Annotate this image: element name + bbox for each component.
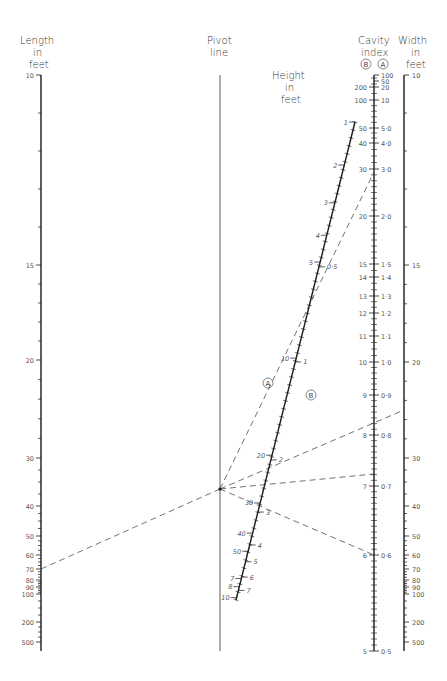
height-left-tick-label: 2	[333, 162, 337, 170]
cavity-a-tick-label: 1·0	[381, 359, 391, 367]
svg-text:Cavity: Cavity	[358, 35, 390, 46]
cavity-b-tick-label: 20	[359, 213, 367, 221]
svg-text:index: index	[361, 47, 388, 58]
cavity-index-title: Cavity index B A	[358, 35, 390, 69]
svg-text:in: in	[285, 82, 294, 93]
cavity-a-tick-label: 0·5	[381, 648, 391, 656]
svg-text:Height: Height	[272, 70, 305, 81]
svg-text:Pivot: Pivot	[207, 35, 232, 46]
example-dashed-lines	[41, 172, 404, 569]
length-tick-label: 15	[26, 262, 34, 270]
height-left-tick-label: 30	[245, 499, 253, 507]
width-tick-label: 500	[412, 639, 424, 647]
height-right-tick-label: 7	[246, 587, 251, 595]
cavity-b-tick-label: 50	[359, 125, 367, 133]
height-left-tick-label: 10	[221, 594, 229, 602]
cavity-b-tick-label: 10	[359, 359, 367, 367]
dashed-line-length-to-pivot	[41, 489, 220, 569]
svg-text:B: B	[364, 61, 369, 69]
cavity-b-tick-label: 40	[359, 140, 367, 148]
cavity-b-tick-label: 9	[363, 392, 367, 400]
width-tick-label: 15	[412, 262, 420, 270]
cavity-a-tick-label: 20	[381, 84, 389, 92]
dashed-line-width	[220, 410, 404, 489]
height-left-tick-label: 1	[344, 119, 348, 127]
svg-text:in: in	[33, 47, 42, 58]
length-tick-label: 10	[26, 72, 34, 80]
svg-text:feet: feet	[281, 94, 301, 105]
height-right-tick-label: 1	[303, 358, 307, 366]
length-tick-label: 30	[26, 455, 34, 463]
svg-text:Length: Length	[20, 35, 54, 46]
width-tick-label: 50	[412, 533, 420, 541]
cavity-a-tick-label: 1·3	[381, 293, 391, 301]
cavity-b-tick-label: 13	[359, 293, 367, 301]
length-tick-label: 50	[26, 533, 34, 541]
height-left-tick-label: 10	[281, 355, 289, 363]
length-tick-label: 200	[22, 619, 34, 627]
svg-text:Width: Width	[398, 35, 427, 46]
line-b-marker: B	[306, 390, 316, 400]
width-tick-label: 200	[412, 619, 424, 627]
svg-text:feet: feet	[406, 59, 426, 70]
cavity-b-tick-label: 200	[355, 84, 367, 92]
cavity-a-tick-label: 0·6	[381, 552, 391, 560]
length-tick-label: 60	[26, 552, 34, 560]
width-tick-label: 30	[412, 455, 420, 463]
cavity-b-tick-label: 30	[359, 166, 367, 174]
height-left-tick-label: 3	[324, 199, 328, 207]
cavity-a-tick-label: 0·8	[381, 432, 391, 440]
nomogram: Length in feet Pivot line Height in feet…	[0, 0, 447, 681]
cavity-b-tick-label: 5	[363, 648, 367, 656]
dashed-line-cavity-7	[220, 474, 374, 489]
svg-text:in: in	[411, 47, 420, 58]
height-right-tick-label: 4	[258, 542, 262, 550]
cavity-b-tick-label: 8	[363, 432, 367, 440]
width-tick-label: 70	[412, 566, 420, 574]
length-axis-title: Length in feet	[20, 35, 54, 70]
svg-text:line: line	[210, 47, 228, 58]
width-tick-label: 20	[412, 359, 420, 367]
width-tick-label: 60	[412, 552, 420, 560]
cavity-a-tick-label: 0·7	[381, 483, 391, 491]
width-axis-title: Width in feet	[398, 35, 427, 70]
cavity-a-tick-label: 1·2	[381, 310, 391, 318]
height-right-tick-label: 3	[266, 509, 270, 517]
svg-text:A: A	[266, 380, 271, 388]
cavity-a-tick-label: 2·0	[381, 213, 391, 221]
width-tick-label: 100	[412, 591, 424, 599]
height-left-tick-label: 20	[257, 452, 265, 460]
height-right-tick-label: 6	[250, 574, 254, 582]
svg-text:feet: feet	[29, 59, 49, 70]
cavity-a-tick-label: 10	[381, 97, 389, 105]
width-tick-label: 10	[412, 72, 420, 80]
dashed-line-cavity-6	[220, 489, 374, 555]
length-tick-label: 70	[26, 566, 34, 574]
height-left-tick-label: 40	[237, 530, 245, 538]
pivot-line-title: Pivot line	[207, 35, 232, 58]
cavity-a-tick-label: 4·0	[381, 140, 391, 148]
length-tick-label: 20	[26, 357, 34, 365]
dashed-line-a	[220, 172, 374, 489]
pivot-point	[218, 487, 221, 490]
cavity-b-tick-label: 7	[363, 483, 367, 491]
cavity-b-tick-label: 15	[359, 261, 367, 269]
cavity-b-tick-label: 12	[359, 310, 367, 318]
height-right-tick-label: 5	[254, 558, 258, 566]
cavity-a-tick-label: 3·0	[381, 166, 391, 174]
cavity-a-tick-label: 5·0	[381, 125, 391, 133]
cavity-a-tick-label: 0·9	[381, 392, 391, 400]
height-right-tick-label: 2	[279, 456, 283, 464]
height-left-tick-label: 8	[228, 583, 232, 591]
height-right-tick-label: 0·5	[327, 263, 337, 271]
svg-text:B: B	[309, 392, 314, 400]
tick-marks: 1015203040506070809010020050010152030405…	[22, 72, 425, 656]
cavity-a-tick-label: 1·5	[381, 261, 391, 269]
height-left-tick-label: 5	[309, 259, 313, 267]
length-tick-label: 500	[22, 639, 34, 647]
cavity-b-tick-label: 100	[355, 97, 367, 105]
length-tick-label: 100	[22, 591, 34, 599]
cavity-b-tick-label: 11	[359, 333, 367, 341]
height-axis-title: Height in feet	[272, 70, 305, 105]
length-tick-label: 40	[26, 503, 34, 511]
